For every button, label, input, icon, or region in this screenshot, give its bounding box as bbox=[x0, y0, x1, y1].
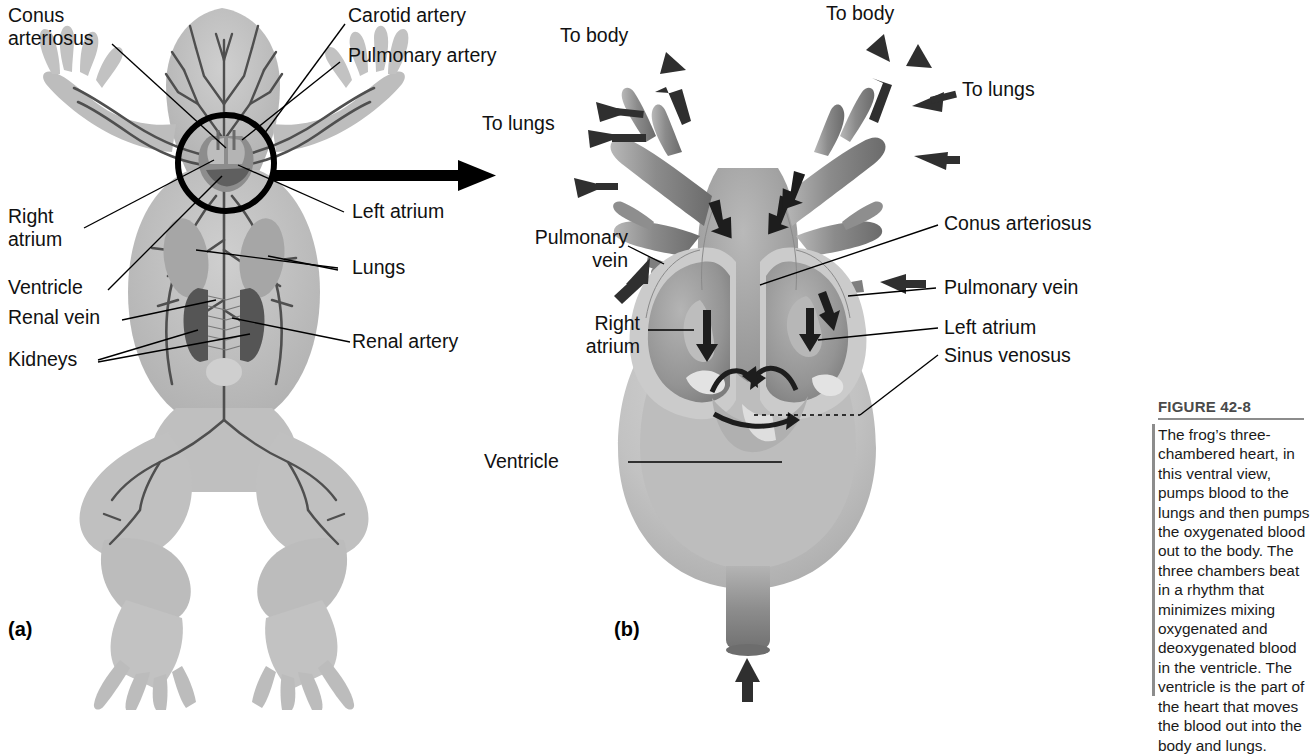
label-conus-arteriosus-a: Conus arteriosus bbox=[8, 4, 94, 50]
label-pulmonary-vein-right: Pulmonary vein bbox=[944, 276, 1078, 299]
heart-illustration bbox=[574, 34, 960, 702]
frog-illustration bbox=[40, 8, 496, 710]
label-left-atrium-b: Left atrium bbox=[944, 316, 1036, 339]
label-right-atrium-a: Right atrium bbox=[8, 205, 62, 251]
figure-caption-text: The frog’s three-chambered heart, in thi… bbox=[1158, 425, 1310, 755]
panel-b-id: (b) bbox=[614, 618, 640, 641]
label-ventricle-b: Ventricle bbox=[484, 450, 559, 473]
label-lungs: Lungs bbox=[352, 256, 405, 279]
label-to-body-left: To body bbox=[560, 24, 628, 47]
label-pulmonary-artery: Pulmonary artery bbox=[348, 44, 496, 67]
label-pulmonary-vein-left: Pulmonary vein bbox=[480, 226, 628, 272]
label-ventricle-a: Ventricle bbox=[8, 276, 83, 299]
magnify-arrow bbox=[272, 160, 496, 191]
label-conus-arteriosus-b: Conus arteriosus bbox=[944, 212, 1091, 235]
figure-number: FIGURE 42-8 bbox=[1158, 398, 1304, 420]
label-to-body-right: To body bbox=[826, 2, 894, 25]
figure-caption-block: FIGURE 42-8 The frog’s three-chambered h… bbox=[1158, 398, 1310, 755]
label-sinus-venosus: Sinus venosus bbox=[944, 344, 1071, 367]
label-renal-artery: Renal artery bbox=[352, 330, 458, 353]
label-right-atrium-b: Right atrium bbox=[488, 312, 640, 358]
label-renal-vein: Renal vein bbox=[8, 306, 100, 329]
label-carotid-artery: Carotid artery bbox=[348, 4, 466, 27]
label-left-atrium-a: Left atrium bbox=[352, 200, 444, 223]
label-to-lungs-left: To lungs bbox=[482, 112, 555, 135]
caption-vertical-rule bbox=[1152, 424, 1155, 696]
label-to-lungs-right: To lungs bbox=[962, 78, 1035, 101]
panel-a-id: (a) bbox=[8, 618, 32, 641]
label-kidneys: Kidneys bbox=[8, 348, 77, 371]
